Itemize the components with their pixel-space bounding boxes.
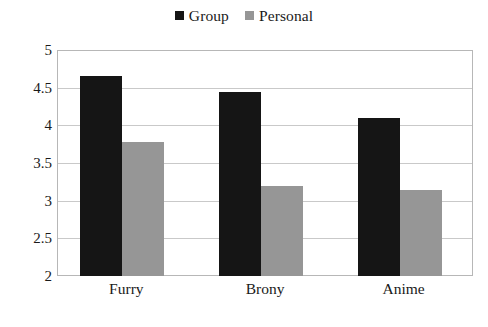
gray-square-icon [245,11,254,20]
x-tick-label-brony: Brony [246,281,285,297]
legend-label-group: Group [189,8,229,24]
y-tick-label: 2 [45,269,53,284]
gridline [58,238,472,239]
plot-area [57,50,473,276]
y-axis: 22.533.544.55 [0,50,52,276]
y-tick-label: 2.5 [33,231,52,246]
y-tick-label: 4.5 [33,80,52,95]
gridline [58,88,472,89]
y-tick-label: 4 [45,118,53,133]
gridline [58,201,472,202]
x-tick-label-furry: Furry [109,281,143,297]
bar-chart: Group Personal 22.533.544.55 FurryBronyA… [0,0,488,327]
legend-item-personal: Personal [245,8,313,24]
legend-label-personal: Personal [259,8,313,24]
x-tick-label-anime: Anime [383,281,425,297]
gridline [58,163,472,164]
y-tick-label: 3 [45,193,53,208]
y-tick-label: 3.5 [33,156,52,171]
black-square-icon [175,11,184,20]
chart-legend: Group Personal [0,8,488,24]
x-axis: FurryBronyAnime [57,281,473,307]
gridline [58,125,472,126]
y-tick-label: 5 [45,43,53,58]
legend-item-group: Group [175,8,229,24]
